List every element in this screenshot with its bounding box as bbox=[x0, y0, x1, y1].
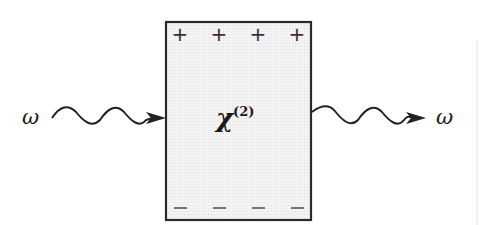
chi2-medium-box bbox=[166, 22, 311, 220]
plus-sign: + bbox=[250, 22, 267, 46]
output-omega-label: ω bbox=[436, 105, 453, 129]
plus-sign: + bbox=[289, 22, 306, 46]
plus-sign: + bbox=[172, 22, 189, 46]
input-omega-label: ω bbox=[22, 105, 39, 129]
input-wave bbox=[52, 107, 160, 124]
plus-sign: + bbox=[211, 22, 228, 46]
nonlinear-medium-diagram: + + + + χ(2) ω ω bbox=[0, 0, 480, 225]
output-wave bbox=[312, 106, 416, 123]
output-arrowhead-icon bbox=[406, 112, 426, 124]
